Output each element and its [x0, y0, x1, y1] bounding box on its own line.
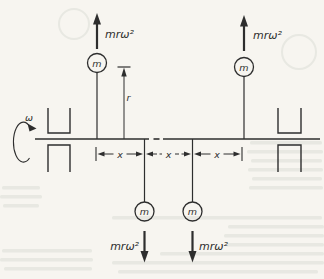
force-label-top-left: mrω²	[105, 28, 134, 41]
mass-top-right: m mrω²	[235, 15, 283, 139]
mass-label: m	[92, 58, 101, 69]
balanced-shaft-diagram: ω m mrω² m mrω² r	[0, 0, 324, 279]
radius-dimension: r	[118, 67, 132, 139]
mass-top-left: m mrω²	[88, 13, 135, 139]
mass-label: m	[239, 62, 248, 73]
mass-label: m	[140, 206, 149, 217]
dimension-x-3: x	[194, 149, 241, 160]
mass-bottom-left: m mrω²	[110, 202, 154, 263]
rotation-arrow-icon: ω	[13, 112, 36, 162]
x-label-3: x	[213, 149, 220, 160]
force-arrow-up-right	[240, 15, 248, 51]
force-label-bottom-right: mrω²	[199, 240, 228, 253]
force-arrow-down-right	[189, 231, 197, 263]
textbook-figure-page: ω m mrω² m mrω² r	[0, 0, 324, 279]
dimension-x-2: x	[146, 149, 191, 160]
force-label-bottom-left: mrω²	[110, 240, 139, 253]
dimension-x-1: x	[98, 149, 144, 160]
x-label-2: x	[165, 149, 172, 160]
x-label-1: x	[116, 149, 123, 160]
radius-label: r	[127, 92, 132, 103]
left-bearing	[48, 108, 70, 172]
force-label-top-right: mrω²	[253, 29, 282, 42]
page-bleed-through	[0, 9, 324, 274]
omega-label: ω	[25, 112, 33, 123]
mass-label: m	[188, 206, 197, 217]
force-arrow-up-left	[93, 13, 101, 49]
spacing-dimensions: x x x	[96, 147, 242, 161]
force-arrow-down-left	[141, 231, 149, 263]
